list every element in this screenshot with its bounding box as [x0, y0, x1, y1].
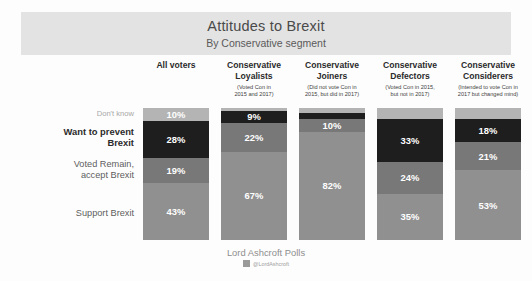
column-header-sub: (Voted Con in 2015 and 2017): [213, 84, 295, 98]
bar-segment-support-brexit: 82%: [299, 132, 365, 240]
column-header-considerers: Conservative Considerers (Intended to vo…: [447, 60, 529, 98]
bar-segment-prevent-brexit: 18%: [455, 119, 521, 143]
social-handle-row: @LordAshcroft: [0, 260, 532, 267]
chart-page: Attitudes to Brexit By Conservative segm…: [0, 0, 532, 281]
column-header-title: All voters: [135, 60, 217, 71]
bar-segment-voted-remain: 19%: [143, 158, 209, 183]
bar-segment-voted-remain: 22%: [221, 123, 287, 152]
row-label-support-brexit: Support Brexit: [12, 208, 134, 219]
bar-segment-voted-remain: 10%: [299, 119, 365, 132]
column-header-sub: (Voted Con in 2015, but not in 2017): [369, 84, 451, 98]
column-header-title: Conservative Considerers: [447, 60, 529, 81]
page-title: Attitudes to Brexit: [207, 18, 324, 35]
bar-all-voters: 10% 28% 19% 43%: [143, 108, 209, 240]
bar-segment-support-brexit: 35%: [377, 194, 443, 240]
bar-loyalists: 9% 22% 67%: [221, 108, 287, 240]
bar-joiners: 10% 82%: [299, 108, 365, 240]
column-header-defectors: Conservative Defectors (Voted Con in 201…: [369, 60, 451, 98]
page-subtitle: By Conservative segment: [206, 37, 326, 49]
column-header-all-voters: All voters: [135, 60, 217, 74]
source-attribution: Lord Ashcroft Polls: [0, 247, 532, 258]
bar-considerers: 18% 21% 53%: [455, 108, 521, 240]
twitter-icon: [243, 260, 250, 267]
row-label-voted-remain: Voted Remain, accept Brexit: [12, 159, 134, 181]
row-label-prevent-brexit: Want to prevent Brexit: [12, 126, 134, 148]
social-handle: @LordAshcroft: [253, 261, 289, 267]
column-header-title: Conservative Defectors: [369, 60, 451, 81]
bar-segment-voted-remain: 24%: [377, 162, 443, 194]
column-header-title: Conservative Loyalists: [213, 60, 295, 81]
title-band: Attitudes to Brexit By Conservative segm…: [21, 12, 511, 55]
column-header-loyalists: Conservative Loyalists (Voted Con in 201…: [213, 60, 295, 98]
bar-segment-dont-know: [455, 108, 521, 119]
bar-segment-prevent-brexit: 33%: [377, 119, 443, 163]
footer: Lord Ashcroft Polls @LordAshcroft: [0, 247, 532, 267]
bar-segment-support-brexit: 43%: [143, 183, 209, 240]
bar-segment-prevent-brexit: 9%: [221, 111, 287, 123]
bar-segment-dont-know: [377, 108, 443, 119]
column-header-joiners: Conservative Joiners (Did not vote Con i…: [291, 60, 373, 98]
bar-segment-dont-know: 10%: [143, 108, 209, 121]
bar-segment-support-brexit: 67%: [221, 152, 287, 240]
bar-segment-support-brexit: 53%: [455, 170, 521, 240]
column-header-sub: (Intended to vote Con in 2017 but change…: [447, 84, 529, 98]
bar-segment-prevent-brexit: 28%: [143, 121, 209, 158]
column-header-title: Conservative Joiners: [291, 60, 373, 81]
column-header-sub: (Did not vote Con in 2015, but did in 20…: [291, 84, 373, 98]
bar-defectors: 33% 24% 35%: [377, 108, 443, 240]
bar-segment-voted-remain: 21%: [455, 142, 521, 170]
row-label-dont-know: Don't know: [12, 110, 134, 119]
